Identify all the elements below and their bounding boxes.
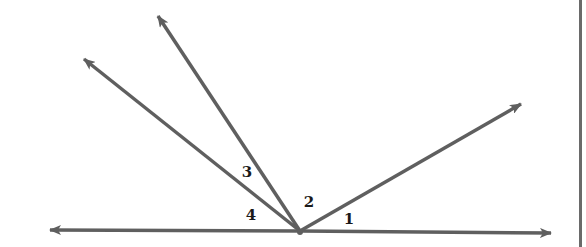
ray-upper-right <box>300 104 521 231</box>
straight-line-right-ray <box>300 231 551 233</box>
straight-line-left-ray <box>50 230 300 231</box>
angle-label-2: 2 <box>304 195 314 210</box>
angle-diagram <box>0 0 586 247</box>
ray-upper-left <box>84 59 300 231</box>
angle-label-4: 4 <box>246 208 256 223</box>
right-border-line <box>579 0 582 247</box>
ray-steep-left <box>158 16 300 231</box>
vertex-point <box>297 229 303 235</box>
angle-label-1: 1 <box>344 212 354 227</box>
angle-label-3: 3 <box>242 165 252 180</box>
